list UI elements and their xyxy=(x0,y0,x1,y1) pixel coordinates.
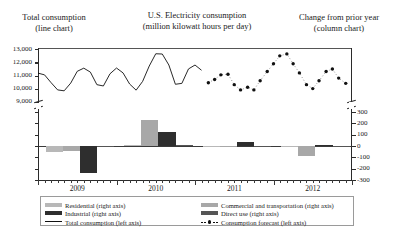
forecast-point xyxy=(258,79,261,82)
forecast-point xyxy=(285,52,288,55)
x-axis-minor-tick xyxy=(287,180,288,183)
legend-item[interactable]: Total consumption (left axis) xyxy=(45,217,141,226)
legend-swatch-icon xyxy=(45,211,62,215)
x-axis-minor-tick xyxy=(103,180,104,183)
column-bar xyxy=(124,145,141,146)
column-bar xyxy=(298,146,315,156)
x-axis-minor-tick xyxy=(175,180,176,183)
right-axis-tick xyxy=(352,146,356,147)
x-axis-minor-tick xyxy=(189,180,190,183)
x-axis-minor-tick xyxy=(339,180,340,183)
column-bar xyxy=(203,146,220,147)
plot-area xyxy=(38,48,352,180)
left-axis-label: 10,000 xyxy=(0,85,32,92)
right-axis-label: -300 xyxy=(357,177,370,184)
column-bar xyxy=(333,146,350,147)
column-bar xyxy=(80,146,97,173)
forecast-point xyxy=(213,78,216,81)
legend-item[interactable]: Consumption forecast (left axis) xyxy=(201,217,306,226)
columns-container xyxy=(38,112,352,180)
left-axis-tick xyxy=(35,146,39,147)
forecast-point xyxy=(226,72,229,75)
x-axis-minor-tick xyxy=(84,180,85,183)
forecast-point xyxy=(291,62,294,65)
forecast-point xyxy=(337,76,340,79)
forecast-point xyxy=(324,70,327,73)
left-axis-tick xyxy=(35,135,39,136)
left-axis-label: 9,000 xyxy=(0,98,32,105)
x-axis-minor-tick xyxy=(51,180,52,183)
x-axis-minor-tick xyxy=(136,180,137,183)
forecast-point xyxy=(239,88,242,91)
forecast-point xyxy=(266,70,269,73)
consumption-line-svg xyxy=(38,48,352,103)
x-axis-minor-tick xyxy=(97,180,98,183)
column-bar xyxy=(97,146,114,147)
legend-swatch-icon xyxy=(45,203,62,207)
x-axis-minor-tick xyxy=(182,180,183,183)
column-bar xyxy=(281,146,298,147)
x-axis-minor-tick xyxy=(306,180,307,183)
right-axis-tick xyxy=(352,169,356,170)
x-axis-minor-tick xyxy=(332,180,333,183)
forecast-point xyxy=(331,67,334,70)
x-axis-minor-tick xyxy=(234,180,235,183)
forecast-point xyxy=(272,62,275,65)
x-axis-minor-tick xyxy=(326,180,327,183)
right-axis-tick xyxy=(352,157,356,158)
x-axis-minor-tick xyxy=(58,180,59,183)
total-consumption-line xyxy=(38,54,202,91)
legend: Residential (right axis)Industrial (righ… xyxy=(40,196,354,226)
x-axis-minor-tick xyxy=(162,180,163,183)
x-axis-minor-tick xyxy=(149,180,150,183)
column-chart-layer xyxy=(38,112,352,180)
left-axis-tick xyxy=(35,123,39,124)
forecast-point xyxy=(233,83,236,86)
right-axis-label: 0 xyxy=(357,143,361,150)
column-bar xyxy=(158,132,175,146)
x-axis-minor-tick xyxy=(71,180,72,183)
column-bar xyxy=(63,146,80,151)
forecast-point xyxy=(305,83,308,86)
column-bar xyxy=(315,145,332,146)
x-axis-year-label: 2011 xyxy=(212,184,256,193)
left-axis-tick xyxy=(35,49,39,50)
legend-label: Total consumption (left axis) xyxy=(65,219,141,226)
x-axis-year-label: 2012 xyxy=(291,184,335,193)
legend-swatch-icon xyxy=(201,203,218,207)
right-axis-label: -200 xyxy=(357,165,370,172)
forecast-point xyxy=(252,88,255,91)
x-axis-major-tick xyxy=(274,180,275,185)
x-axis-minor-tick xyxy=(90,180,91,183)
x-axis-minor-tick xyxy=(45,180,46,183)
forecast-point xyxy=(317,79,320,82)
chart-title-main: U.S. Electricity consumption xyxy=(104,10,290,21)
x-axis-minor-tick xyxy=(260,180,261,183)
x-axis-minor-tick xyxy=(319,180,320,183)
right-axis-tick xyxy=(352,123,356,124)
forecast-point xyxy=(219,73,222,76)
right-axis-label: 200 xyxy=(357,120,368,127)
forecast-point xyxy=(278,54,281,57)
x-axis-minor-tick xyxy=(143,180,144,183)
x-axis-minor-tick xyxy=(221,180,222,183)
left-axis-title-main: Total consumption xyxy=(4,12,104,23)
column-bar xyxy=(220,146,237,147)
line-chart-layer xyxy=(38,48,352,103)
x-axis-minor-tick xyxy=(267,180,268,183)
column-bar xyxy=(237,142,254,146)
forecast-point xyxy=(246,86,249,89)
x-axis-major-tick xyxy=(117,180,118,185)
right-axis-tick xyxy=(352,135,356,136)
left-axis-title-sub: (line chart) xyxy=(4,23,104,34)
x-axis-minor-tick xyxy=(215,180,216,183)
forecast-point xyxy=(344,82,347,85)
x-axis-minor-tick xyxy=(300,180,301,183)
right-axis-title: Change from prior year (column chart) xyxy=(286,12,392,33)
legend-label: Consumption forecast (left axis) xyxy=(221,219,306,226)
x-axis-minor-tick xyxy=(241,180,242,183)
column-bar xyxy=(254,146,271,147)
legend-dotted-marker-icon xyxy=(201,220,218,225)
left-axis-tick xyxy=(35,157,39,158)
left-axis-label: 13,000 xyxy=(0,46,32,53)
